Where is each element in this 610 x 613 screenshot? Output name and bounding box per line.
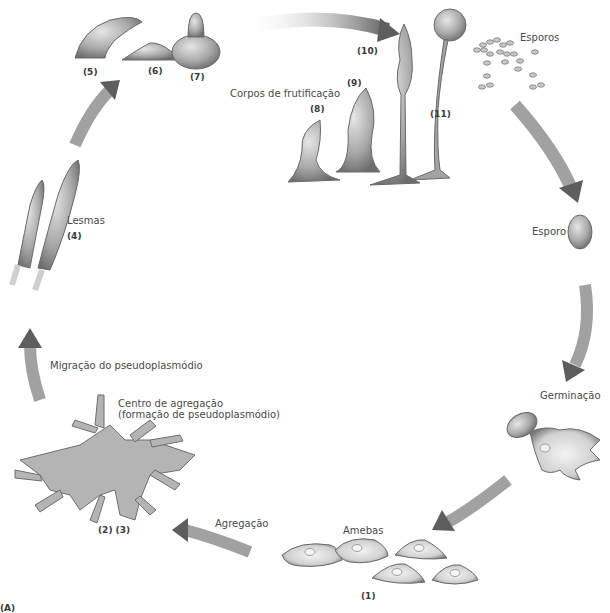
aggregation-center-label-2: (formação de pseudoplasmódio) bbox=[118, 409, 280, 421]
stage-11-number: (11) bbox=[430, 109, 451, 119]
arrow-top bbox=[245, 18, 400, 42]
amoebas-label: Amebas bbox=[343, 525, 383, 537]
aggregation-label: Agregação bbox=[215, 518, 268, 530]
migration-label: Migração do pseudoplasmódio bbox=[50, 360, 203, 372]
stage-9-number: (9) bbox=[347, 78, 362, 88]
stage-6-organism bbox=[122, 43, 178, 60]
slugs-number: (4) bbox=[67, 231, 82, 241]
stage-7-number: (7) bbox=[190, 72, 205, 82]
life-cycle-diagram: (5) (6) (7) (10) Corpos de frutificação … bbox=[0, 0, 610, 613]
panel-label: (A) bbox=[0, 603, 15, 613]
stage-11-fruiting-body bbox=[410, 9, 466, 180]
stage-10-number: (10) bbox=[357, 46, 378, 56]
amoebas-number: (1) bbox=[361, 591, 376, 601]
stage-8-number: (8) bbox=[310, 104, 325, 114]
spores-label: Esporos bbox=[520, 32, 559, 44]
slugs-label: Lesmas bbox=[67, 215, 105, 227]
stage-7-organism bbox=[172, 13, 220, 69]
spore-label: Esporo bbox=[532, 226, 566, 238]
single-spore bbox=[568, 215, 592, 249]
fruiting-bodies-label: Corpos de frutificação bbox=[230, 88, 340, 100]
germinating-spore bbox=[503, 407, 600, 480]
stage-9-fruiting-body bbox=[336, 88, 380, 172]
arrow-spores-to-spore bbox=[515, 105, 583, 203]
stage-5-organism bbox=[75, 17, 142, 58]
germination-label: Germinação bbox=[540, 390, 601, 402]
amoebas-group bbox=[282, 539, 478, 584]
aggregation-center-number: (2) (3) bbox=[98, 525, 130, 535]
spores-cluster bbox=[474, 38, 545, 89]
stage-5-number: (5) bbox=[83, 67, 98, 77]
arrow-migration bbox=[18, 328, 42, 400]
stage-8-fruiting-body bbox=[288, 120, 340, 182]
stage-6-number: (6) bbox=[148, 66, 163, 76]
arrow-germination-to-amoebas bbox=[432, 480, 508, 531]
arrow-slug-to-culmination bbox=[75, 80, 120, 145]
arrow-spore-to-germination bbox=[562, 285, 587, 382]
